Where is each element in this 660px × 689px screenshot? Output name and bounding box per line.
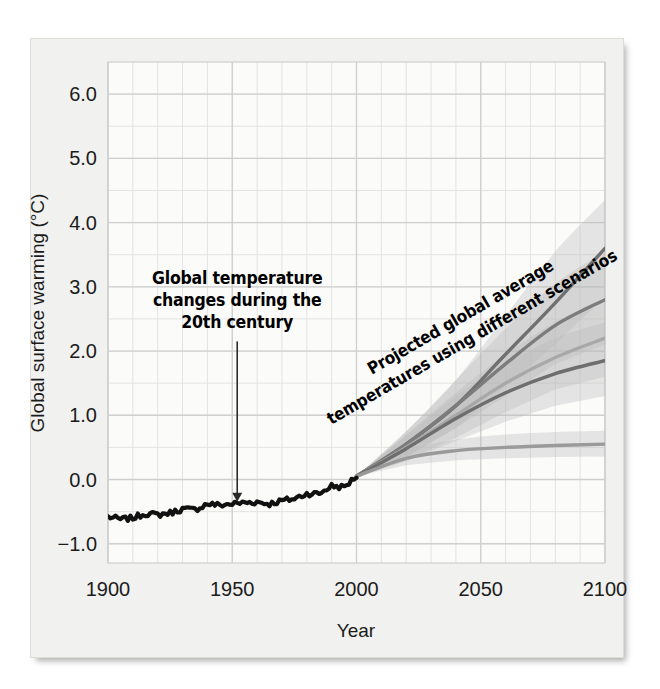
x-axis-label: Year: [337, 620, 376, 641]
y-axis-ticks: 6.05.04.03.02.01.00.0−1.0: [58, 83, 97, 555]
x-tick-label: 2050: [459, 578, 504, 600]
climate-projection-chart: 6.05.04.03.02.01.00.0−1.0 19001950200020…: [0, 0, 660, 689]
y-tick-label: 4.0: [69, 212, 97, 234]
y-tick-label: 6.0: [69, 83, 97, 105]
historical-annotation-line: Global temperature: [152, 268, 322, 288]
historical-annotation-line: changes during the: [153, 290, 322, 310]
y-tick-label: −1.0: [58, 533, 97, 555]
x-tick-label: 1950: [210, 578, 255, 600]
x-tick-label: 1900: [86, 578, 131, 600]
y-tick-label: 3.0: [69, 276, 97, 298]
x-tick-label: 2100: [583, 578, 628, 600]
x-tick-label: 2000: [334, 578, 379, 600]
y-tick-label: 2.0: [69, 340, 97, 362]
historical-annotation-line: 20th century: [181, 312, 293, 332]
y-tick-label: 5.0: [69, 147, 97, 169]
y-axis-label: Global surface warming (°C): [27, 194, 48, 433]
y-tick-label: 1.0: [69, 404, 97, 426]
y-tick-label: 0.0: [69, 469, 97, 491]
x-axis-ticks: 19001950200020502100: [86, 578, 628, 600]
figure-stage: 6.05.04.03.02.01.00.0−1.0 19001950200020…: [0, 0, 660, 689]
